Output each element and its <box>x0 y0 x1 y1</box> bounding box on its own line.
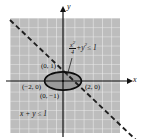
x-axis-label: x <box>133 76 137 84</box>
ellipse-equation-label: x2 4 +y2≤ 1 <box>69 40 97 56</box>
y-axis-label: y <box>67 3 71 11</box>
ellipse-fraction: x2 4 <box>69 40 76 56</box>
vertex-dots <box>62 80 64 82</box>
point-label-top: (0, 1) <box>41 63 56 70</box>
ellipse-fraction-denominator: 4 <box>69 49 76 55</box>
ellipse-inequality-tail: ≤ 1 <box>87 43 97 52</box>
point-label-left: (−2, 0) <box>22 84 41 91</box>
ellipse-num-exponent: 2 <box>73 40 76 45</box>
line-inequality-label: x + y ≤ 1 <box>20 110 47 118</box>
point-label-right: (2, 0) <box>85 84 100 91</box>
point-label-bottom: (0, −1) <box>40 93 59 100</box>
figure-canvas <box>0 0 141 139</box>
ellipse-fraction-numerator: x2 <box>69 40 76 49</box>
figure-inequality-region: y x (0, 1) (−2, 0) (2, 0) (0, −1) x2 4 +… <box>0 0 141 139</box>
